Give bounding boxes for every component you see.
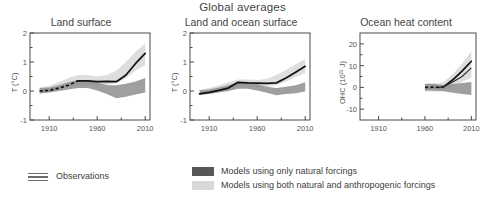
panel-title-ocean-heat-content: Ocean heat content — [330, 16, 482, 28]
legend-anthropogenic-forcings: Models using both natural and anthropoge… — [192, 180, 435, 190]
panel-ocean-heat-content: Ocean heat content OHC (10²² J) 19101960… — [330, 16, 482, 144]
y-tick-label: 0 — [23, 87, 27, 96]
y-tick-label: -1 — [20, 116, 27, 125]
x-tick-label: 2010 — [297, 124, 314, 133]
y-tick-label: 0 — [353, 83, 357, 92]
x-tick-label: 1910 — [41, 124, 58, 133]
legend-swatch-anthropogenic — [192, 181, 214, 190]
y-tick-label: -10 — [346, 105, 357, 114]
legend-swatch-natural — [192, 167, 214, 176]
x-tick-label: 1960 — [417, 124, 434, 133]
plot-area-ocean-heat-content: 191019602010-1001020 — [330, 16, 482, 144]
y-tick-label: 20 — [349, 40, 357, 49]
y-axis-label-land-ocean-surface: T (°C) — [170, 63, 179, 103]
y-tick-label: -1 — [180, 116, 187, 125]
legend-anthro-label: Models using both natural and anthropoge… — [221, 180, 435, 190]
band-natural — [200, 82, 306, 95]
y-tick-label: 10 — [349, 62, 357, 71]
x-tick-label: 2010 — [463, 124, 480, 133]
panel-title-land-ocean-surface: Land and ocean surface — [166, 16, 316, 28]
y-tick-label: 1 — [23, 58, 27, 67]
y-tick-label: 0 — [183, 87, 187, 96]
y-tick-label: 2 — [183, 29, 187, 38]
legend-natural-label: Models using only natural forcings — [221, 166, 357, 176]
figure-title: Global averages — [0, 1, 485, 13]
legend-natural-forcings: Models using only natural forcings — [192, 166, 357, 176]
x-tick-label: 1910 — [370, 124, 387, 133]
legend-observations: Observations — [28, 171, 109, 181]
legend-observations-label: Observations — [56, 171, 109, 181]
y-tick-label: 1 — [183, 58, 187, 67]
x-tick-label: 1910 — [201, 124, 218, 133]
panel-land-ocean-surface: Land and ocean surface T (°C) 1910196020… — [166, 16, 316, 144]
plot-area-land-surface: 191019602010-1012 — [6, 16, 156, 144]
x-tick-label: 1960 — [89, 124, 106, 133]
x-tick-label: 2010 — [137, 124, 154, 133]
climate-attribution-figure: Global averages Land surface T (°C) 1910… — [0, 0, 485, 203]
triple-line-icon — [28, 172, 48, 181]
x-tick-label: 1960 — [249, 124, 266, 133]
plot-area-land-ocean-surface: 191019602010-1012 — [166, 16, 316, 144]
y-axis-label-land-surface: T (°C) — [10, 63, 19, 103]
y-axis-label-ocean-heat-content: OHC (10²² J) — [338, 55, 347, 111]
y-tick-label: 2 — [23, 29, 27, 38]
panel-land-surface: Land surface T (°C) 191019602010-1012 — [6, 16, 156, 144]
panel-title-land-surface: Land surface — [6, 16, 156, 28]
